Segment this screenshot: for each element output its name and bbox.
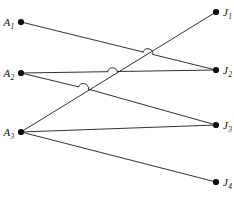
node-label-j4: J4 — [223, 177, 232, 188]
node-a2[interactable] — [18, 70, 24, 76]
bipartite-graph-figure: A1 A2 A3 J1 J2 J3 J4 — [0, 0, 234, 200]
node-j4[interactable] — [213, 179, 219, 185]
node-label-j4-sub: 4 — [228, 181, 232, 190]
node-label-a1-text: A — [4, 16, 11, 28]
edge-a3-j4 — [21, 132, 216, 182]
node-j2[interactable] — [213, 67, 219, 73]
node-j1[interactable] — [213, 9, 219, 15]
node-j3[interactable] — [213, 122, 219, 128]
node-a3[interactable] — [18, 129, 24, 135]
node-label-j2-sub: 2 — [228, 69, 232, 78]
node-label-a3: A3 — [4, 127, 14, 138]
node-label-j1-sub: 1 — [228, 11, 232, 20]
hop-arc-a2j2 — [108, 68, 118, 72]
node-label-a1: A1 — [4, 17, 14, 28]
node-label-j1: J1 — [223, 7, 232, 18]
node-label-a2-text: A — [4, 67, 11, 79]
node-label-j2: J2 — [223, 65, 232, 76]
node-label-a1-sub: 1 — [11, 21, 15, 30]
node-label-j3: J3 — [223, 120, 232, 131]
hop-arc-a2j3 — [79, 84, 89, 90]
edge-a3-j3 — [21, 125, 216, 132]
node-a1[interactable] — [18, 19, 24, 25]
edge-a2-j3 — [21, 73, 216, 125]
edge-a1-j2 — [21, 22, 216, 70]
node-label-a2: A2 — [4, 68, 14, 79]
node-label-a2-sub: 2 — [11, 72, 15, 81]
graph-canvas — [0, 0, 234, 200]
node-label-a3-text: A — [4, 126, 11, 138]
edge-a3-j1 — [21, 12, 216, 132]
node-label-a3-sub: 3 — [11, 131, 15, 140]
node-label-j3-sub: 3 — [228, 124, 232, 133]
